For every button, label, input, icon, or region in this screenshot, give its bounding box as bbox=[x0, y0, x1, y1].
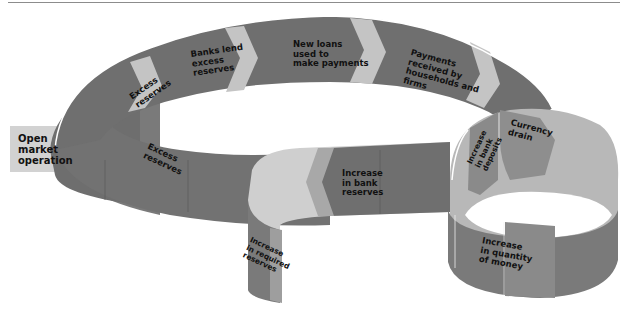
label-increase-bank-reserves: Increase in bank reserves bbox=[342, 169, 383, 198]
label-new-loans: New loans used to make payments bbox=[293, 40, 369, 69]
bank-reserves-band bbox=[318, 142, 450, 216]
label-open-market-operation: Open market operation bbox=[18, 133, 73, 166]
